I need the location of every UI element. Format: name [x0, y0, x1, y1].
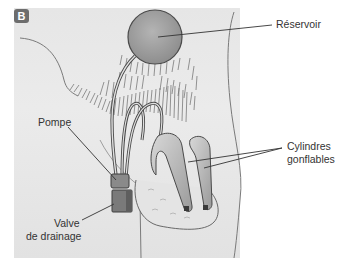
leader-valve	[82, 204, 114, 220]
label-cylinders-line2: gonflables	[287, 153, 335, 165]
panel-badge: B	[14, 9, 29, 23]
label-reservoir: Réservoir	[276, 18, 321, 30]
label-cylinders-line1: Cylindres	[287, 140, 331, 152]
cylinder-tip-right	[203, 205, 208, 210]
label-pump: Pompe	[38, 116, 71, 128]
anatomy-illustration	[0, 0, 338, 268]
leader-pump	[68, 127, 116, 180]
body-contour-left	[20, 38, 78, 96]
pubic-hair	[70, 55, 197, 122]
label-valve-line1: Valve	[54, 217, 80, 229]
label-valve-line2: de drainage	[26, 230, 81, 242]
pump	[111, 174, 129, 188]
body-contour-right	[228, 12, 241, 258]
cylinder-tip-left	[184, 206, 189, 211]
reservoir	[128, 10, 182, 64]
